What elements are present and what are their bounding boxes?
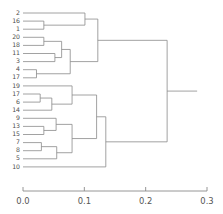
x-axis-tick-label: 0.1 bbox=[78, 196, 91, 206]
leaf-label: 14 bbox=[12, 106, 20, 113]
leaf-label: 7 bbox=[16, 138, 20, 145]
leaf-label: 9 bbox=[16, 114, 20, 121]
x-axis-tick-label: 0.3 bbox=[200, 196, 213, 206]
leaf-label: 18 bbox=[12, 41, 20, 48]
leaf-label: 16 bbox=[12, 17, 20, 24]
leaf-label: 5 bbox=[16, 154, 20, 161]
leaf-label: 1 bbox=[16, 25, 20, 32]
leaf-label: 10 bbox=[12, 163, 20, 170]
leaf-label: 11 bbox=[12, 49, 20, 56]
leaf-label: 19 bbox=[12, 82, 20, 89]
dendrogram-canvas: 21612018113417191761491315785100.00.10.2… bbox=[0, 0, 223, 214]
dendrogram-figure: 21612018113417191761491315785100.00.10.2… bbox=[0, 0, 223, 214]
leaf-label: 4 bbox=[16, 65, 20, 72]
x-axis-tick-label: 0.2 bbox=[139, 196, 152, 206]
x-axis-tick-label: 0.0 bbox=[16, 196, 29, 206]
leaf-label: 20 bbox=[12, 33, 20, 40]
leaf-label: 13 bbox=[12, 122, 20, 129]
leaf-label: 15 bbox=[12, 130, 20, 137]
leaf-label: 17 bbox=[12, 73, 20, 80]
leaf-label: 17 bbox=[12, 90, 20, 97]
leaf-label: 8 bbox=[16, 146, 20, 153]
leaf-label: 3 bbox=[16, 57, 20, 64]
leaf-label: 2 bbox=[16, 9, 20, 16]
leaf-label: 6 bbox=[16, 98, 20, 105]
